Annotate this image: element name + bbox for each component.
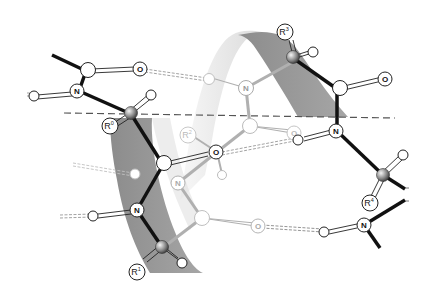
hydrogen-atom [146,90,156,100]
carbonyl-carbon-atom [81,63,96,78]
hydrogen-atom [308,47,318,57]
oxygen-label: O [382,75,388,84]
oxygen-label: O [137,65,143,74]
hydrogen-atom [29,91,39,101]
bond-break-mark [405,188,409,201]
faded-hydrogen-atom [130,169,140,179]
h-bond-top [145,69,207,81]
faded-nitrogen-label: N [243,84,249,93]
nitrogen-label: N [134,206,140,215]
carbonyl-carbon-atom [333,81,348,96]
faded-carbon-atom [195,211,210,226]
nitrogen-label: N [74,87,80,96]
hydrogen-atom [319,227,329,237]
alpha-carbon-atom [125,107,138,120]
hydrogen-atom [177,258,187,268]
alpha-carbon-atom [156,241,169,254]
faded-nitrogen-label: N [175,179,181,188]
faded-carbon-atom [243,119,258,134]
alpha-carbon-atom [287,51,300,64]
ribbon-front-dark-top [238,32,348,117]
hydrogen-atom [398,150,408,160]
nitrogen-label: N [361,221,367,230]
faded-hydrogen-atom [218,171,227,180]
hydrogen-atom [88,211,98,221]
back-bonds [160,58,300,250]
alpha-helix-diagram: N O N O R2 O N R0 O N [0,0,428,299]
h-bond-bottom [262,225,323,232]
oxygen-label: O [213,148,219,157]
hydrogen-atom [293,135,303,145]
faded-hydrogen-atom [204,74,215,85]
carbonyl-carbon-atom [157,156,172,171]
nitrogen-label: N [333,127,339,136]
faded-oxygen-label: O [255,222,261,231]
alpha-carbon-atom [377,169,390,182]
